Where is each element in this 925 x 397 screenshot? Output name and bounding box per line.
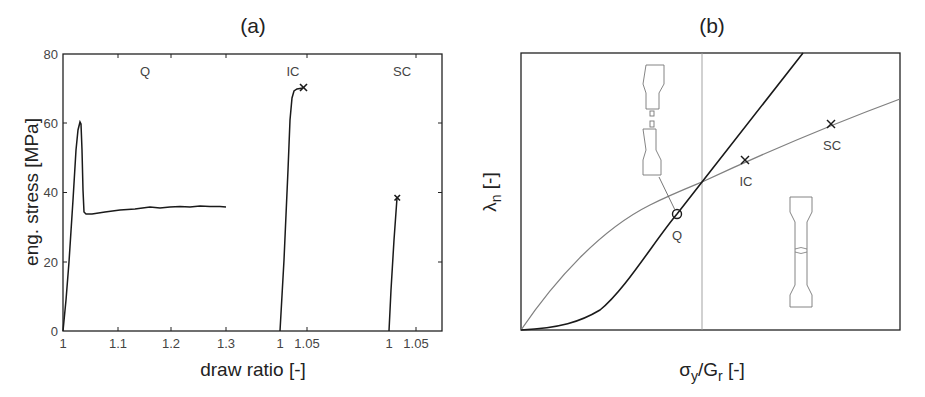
panel-a-ytick-80: 80 [44,47,58,62]
leader-line [659,177,675,210]
panel-b-label-sc: SC [823,138,841,153]
panel-a-ytick-20: 20 [44,255,58,270]
panel-b-label-ic: IC [740,174,753,189]
panel-a-ytick-0: 0 [51,324,58,339]
panel-a-xtick: 1.2 [162,336,180,351]
panel-b: (b) Q IC SC [479,14,900,384]
panel-a-xtick: 1 [276,336,283,351]
series-q-curve [63,122,226,331]
series-ic-curve [280,88,303,331]
panel-b-ylabel: λn [-] [479,172,504,211]
panel-a-ytick-60: 60 [44,116,58,131]
panel-a-xtick: 1.05 [294,336,319,351]
crazed-specimen-icon [790,197,812,307]
panel-b-xlabel: σy/Gr [-] [679,359,745,384]
panel-a-label-sc: SC [393,64,411,79]
panel-a-xtick: 1.05 [403,336,428,351]
series-gray-curve [521,99,900,330]
panel-a-label-ic: IC [287,64,300,79]
panel-a-xtick: 1 [59,336,66,351]
panel-a-y-ticks [63,123,442,262]
panel-a-label-q: Q [140,64,150,79]
panel-a: (a) 0 20 40 60 80 1 1.1 1.2 1.3 1 1.05 1 [21,14,442,380]
panel-a-xtick: 1 [385,336,392,351]
panel-a-ytick-40: 40 [44,185,58,200]
figure: (a) 0 20 40 60 80 1 1.1 1.2 1.3 1 1.05 1 [0,0,925,397]
panel-a-xtick: 1.1 [109,336,127,351]
panel-a-xtick: 1.3 [217,336,235,351]
ic-failure-x-icon [300,84,307,91]
series-black-curve [521,53,803,330]
panel-a-title: (a) [240,14,266,37]
necked-specimen-icon [643,65,664,175]
panel-b-axes-frame [521,53,900,330]
panel-a-axes-frame [63,54,442,331]
panel-a-ylabel: eng. stress [MPa] [21,118,42,266]
panel-b-title: (b) [699,14,725,37]
panel-a-x-ticks [118,54,416,331]
series-sc-curve [389,198,397,331]
panel-a-xlabel: draw ratio [-] [200,359,306,380]
panel-b-label-q: Q [672,228,682,243]
